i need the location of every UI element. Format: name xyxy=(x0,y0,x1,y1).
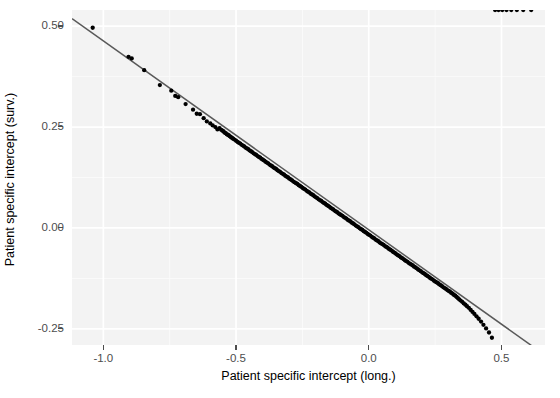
x-tick-label: -1.0 xyxy=(73,352,133,364)
x-tick-label: 0.0 xyxy=(339,352,399,364)
x-tick-label: 0.5 xyxy=(471,352,531,364)
y-tick-mark xyxy=(58,126,63,127)
x-axis-title: Patient specific intercept (long.) xyxy=(72,369,545,383)
scatter-plot-figure: 0.500.250.00-0.25 -1.0-0.50.00.5 Patient… xyxy=(0,0,560,398)
x-tick: -0.5 xyxy=(206,345,266,369)
y-axis-title: Patient specific intercept (surv.) xyxy=(2,7,18,352)
x-tick: 0.5 xyxy=(471,345,531,369)
x-tick-mark xyxy=(368,345,369,350)
x-tick-mark xyxy=(501,345,502,350)
y-tick-mark xyxy=(58,328,63,329)
x-tick-mark xyxy=(103,345,104,350)
y-tick-mark xyxy=(58,227,63,228)
plot-canvas xyxy=(72,10,545,345)
y-tick-mark xyxy=(58,25,63,26)
figure-caption-sliver xyxy=(150,0,410,8)
x-tick: -1.0 xyxy=(73,345,133,369)
x-tick-mark xyxy=(235,345,236,350)
x-tick-label: -0.5 xyxy=(206,352,266,364)
x-tick: 0.0 xyxy=(339,345,399,369)
plot-panel xyxy=(72,10,545,345)
